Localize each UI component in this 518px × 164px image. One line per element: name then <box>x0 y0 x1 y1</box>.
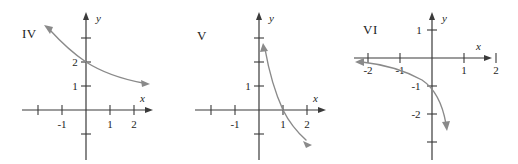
panel-label-v: V <box>197 28 207 44</box>
panel-label-iv: IV <box>22 26 37 42</box>
x-axis-arrowhead-v <box>318 107 326 113</box>
coordinate-plane-v: -1 1 2 1 y x <box>173 0 346 164</box>
coordinate-plane-iv: -1 1 2 2 1 y x <box>0 0 173 164</box>
y-axis-label-v: y <box>268 12 274 24</box>
x-axis-arrowhead-vi <box>484 55 492 61</box>
y-tick-label-1-v: 1 <box>245 80 251 92</box>
y-tick-label-1-vi: 1 <box>416 24 422 36</box>
curve-vi <box>362 62 446 124</box>
graph-panel-vi: VI -2 -1 1 2 1 -1 -2 y x <box>346 0 518 164</box>
y-tick-label-neg2-vi: -2 <box>411 108 420 120</box>
y-tick-label-2-iv: 2 <box>72 56 78 68</box>
x-axis-label-v: x <box>312 92 318 104</box>
graph-panel-v: V -1 1 2 1 y x <box>173 0 346 164</box>
y-axis-label-iv: y <box>95 12 101 24</box>
x-axis-arrowhead-iv <box>145 107 153 113</box>
x-tick-label-1-vi: 1 <box>461 64 467 76</box>
y-tick-label-1-iv: 1 <box>72 80 78 92</box>
y-axis-arrowhead-v <box>256 12 262 20</box>
y-axis-label-vi: y <box>441 12 447 24</box>
x-tick-label-1-iv: 1 <box>107 118 113 130</box>
x-tick-label-neg1-v: -1 <box>230 118 239 130</box>
x-tick-label-neg2-vi: -2 <box>363 64 372 76</box>
x-tick-label-2-v: 2 <box>304 118 310 130</box>
graph-panel-iv: IV -1 1 2 2 1 y x <box>0 0 173 164</box>
curve-iv <box>49 29 143 83</box>
curve-arrowhead-top-v <box>260 43 268 52</box>
exponential-log-graphs-figure: IV -1 1 2 2 1 y x <box>0 0 518 164</box>
x-tick-label-2-iv: 2 <box>131 118 137 130</box>
y-tick-label-neg1-vi: -1 <box>411 80 420 92</box>
x-tick-label-neg1-iv: -1 <box>57 118 66 130</box>
y-axis-arrowhead-vi <box>429 12 435 20</box>
x-axis-label-iv: x <box>139 92 145 104</box>
panel-label-vi: VI <box>363 22 378 38</box>
x-axis-label-vi: x <box>475 40 481 52</box>
y-axis-arrowhead-iv <box>83 12 89 20</box>
curve-arrowhead-left-vi <box>355 58 364 66</box>
x-tick-label-2-vi: 2 <box>493 64 499 76</box>
curve-arrowhead-bottom-vi <box>442 121 450 131</box>
curve-arrowhead-bottom-v <box>303 141 312 148</box>
curve-arrowhead-right-iv <box>141 80 150 87</box>
x-tick-label-1-v: 1 <box>280 118 286 130</box>
